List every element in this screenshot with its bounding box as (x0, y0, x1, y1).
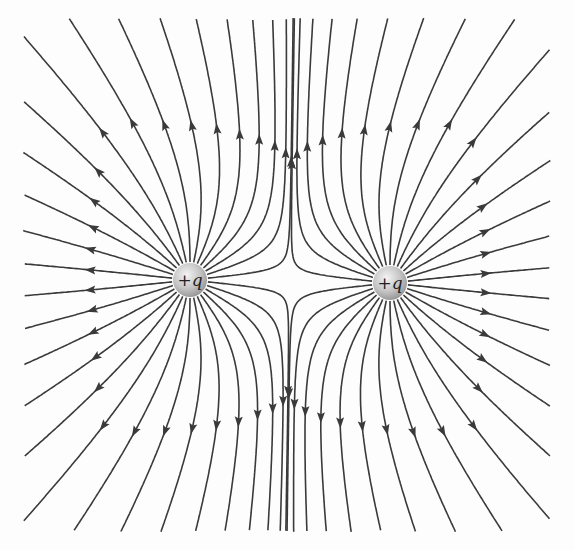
arrowhead-icon (88, 351, 102, 364)
field-lines-svg: +q +q (0, 0, 574, 550)
field-line (23, 231, 173, 275)
field-line (121, 298, 190, 532)
field-line (341, 19, 379, 269)
field-line (401, 298, 550, 456)
field-line (287, 285, 372, 531)
arrowhead-icon (480, 307, 493, 318)
arrowhead-icon (159, 118, 170, 131)
field-line (408, 285, 549, 299)
charge-left: +q (173, 263, 207, 297)
arrowhead-icon (84, 244, 97, 255)
field-line (25, 195, 175, 271)
field-line (379, 18, 424, 265)
field-line (25, 295, 180, 456)
arrowhead-icon (382, 424, 392, 436)
field-line (24, 37, 183, 264)
field-line (201, 295, 239, 531)
field-line (25, 286, 173, 329)
arrowhead-icon (126, 116, 138, 129)
field-line (321, 295, 377, 531)
field-line (24, 296, 183, 520)
arrowhead-icon (385, 120, 395, 133)
arrowhead-icon (479, 225, 492, 237)
field-lines (23, 18, 550, 532)
arrowhead-icon (443, 117, 455, 131)
arrowhead-icon (479, 329, 492, 341)
charge-label: +q (177, 270, 202, 290)
field-line (361, 19, 388, 267)
field-line (390, 301, 455, 532)
arrowhead-icon (86, 221, 99, 233)
arrowhead-icon (86, 326, 99, 338)
field-line (403, 161, 550, 272)
field-line (161, 298, 201, 532)
field-line (379, 301, 416, 532)
field-line (160, 18, 201, 262)
arrowhead-icon (86, 305, 99, 316)
field-line (401, 112, 550, 268)
arrowhead-icon (87, 195, 101, 208)
arrowhead-icon (187, 119, 197, 131)
charge-label: +q (377, 273, 402, 293)
field-line (23, 153, 176, 269)
arrowhead-icon (187, 423, 197, 436)
field-line (24, 289, 174, 364)
arrowhead-icon (159, 425, 170, 438)
arrowhead-icon (412, 118, 423, 131)
field-line (407, 289, 549, 331)
arrowhead-icon (128, 425, 140, 438)
arrowhead-icon (408, 426, 419, 439)
charge-right: +q (373, 266, 407, 300)
field-line (292, 18, 373, 281)
field-line (406, 292, 550, 365)
field-line (25, 264, 172, 278)
field-line (406, 201, 550, 274)
field-line (361, 299, 383, 530)
field-diagram: +q +q (0, 0, 574, 550)
field-line (201, 19, 240, 265)
arrowhead-icon (480, 248, 493, 259)
field-line (119, 19, 190, 262)
field-line (203, 20, 259, 268)
field-line (322, 19, 376, 271)
arrowhead-icon (437, 425, 449, 438)
field-line (24, 102, 179, 266)
field-line (407, 236, 549, 277)
